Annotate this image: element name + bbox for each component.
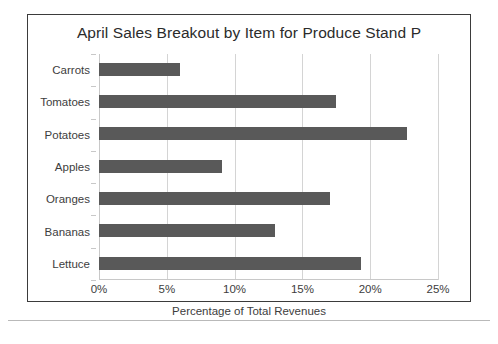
gridline-25 (438, 54, 439, 280)
bar-row (99, 119, 438, 150)
bar-row (99, 215, 438, 246)
y-axis-tick (91, 183, 96, 184)
y-axis-tick (91, 280, 96, 281)
y-axis-tick (91, 119, 96, 120)
chart-frame: April Sales Breakout by Item for Produce… (27, 14, 471, 302)
bar-apples[interactable] (99, 160, 222, 173)
x-axis-title: Percentage of Total Revenues (28, 305, 470, 317)
bar-oranges[interactable] (99, 192, 330, 205)
bar-tomatoes[interactable] (99, 95, 336, 108)
bar-row (99, 183, 438, 214)
y-axis-tick (91, 86, 96, 87)
x-axis-tick-label-20: 20% (359, 283, 382, 295)
bar-row (99, 248, 438, 279)
bottom-divider (8, 320, 490, 321)
bar-bananas[interactable] (99, 224, 275, 237)
y-axis-tick (91, 248, 96, 249)
bars-layer (99, 54, 438, 280)
chart-title: April Sales Breakout by Item for Produce… (28, 24, 470, 42)
plot-area (99, 54, 438, 280)
x-axis-tick-label-25: 25% (426, 283, 449, 295)
bar-lettuce[interactable] (99, 257, 361, 270)
y-axis-tick (91, 215, 96, 216)
y-axis-category-labels: CarrotsTomatoesPotatoesApplesOrangesBana… (28, 54, 96, 280)
x-axis-tick-label-15: 15% (291, 283, 314, 295)
bar-row (99, 151, 438, 182)
y-axis-tick (91, 151, 96, 152)
y-axis-label-apples: Apples (55, 151, 90, 183)
y-axis-label-tomatoes: Tomatoes (40, 86, 90, 118)
bar-potatoes[interactable] (99, 127, 407, 140)
x-axis-tick-labels: 0%5%10%15%20%25% (99, 283, 438, 299)
bar-carrots[interactable] (99, 63, 180, 76)
y-axis-label-potatoes: Potatoes (45, 119, 90, 151)
y-axis-label-bananas: Bananas (45, 215, 90, 247)
x-axis-tick-label-0: 0% (91, 283, 108, 295)
y-axis-label-lettuce: Lettuce (52, 248, 90, 280)
x-axis-tick-label-10: 10% (223, 283, 246, 295)
y-axis-label-oranges: Oranges (46, 183, 90, 215)
bar-row (99, 54, 438, 85)
y-axis-label-carrots: Carrots (52, 54, 90, 86)
bar-row (99, 86, 438, 117)
y-axis-tick (91, 54, 96, 55)
x-axis-tick-label-5: 5% (158, 283, 175, 295)
